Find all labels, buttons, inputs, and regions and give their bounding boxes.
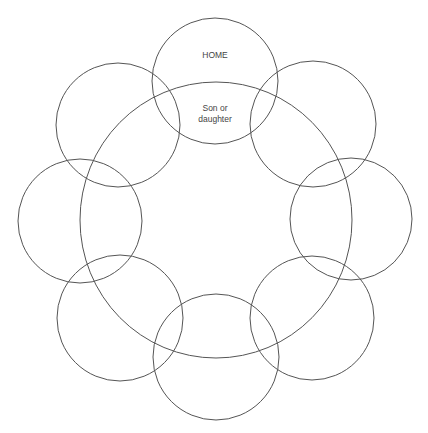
son-or-label: Son or [202, 103, 227, 113]
circle-right [290, 158, 412, 280]
home-label: HOME [202, 50, 228, 60]
circle-top [152, 18, 278, 144]
diagram-shapes [18, 18, 412, 420]
circle-bottom [153, 294, 279, 420]
circle-top-right [250, 61, 376, 187]
daughter-label: daughter [198, 114, 232, 124]
venn-diagram: HOME Son or daughter [0, 0, 428, 433]
